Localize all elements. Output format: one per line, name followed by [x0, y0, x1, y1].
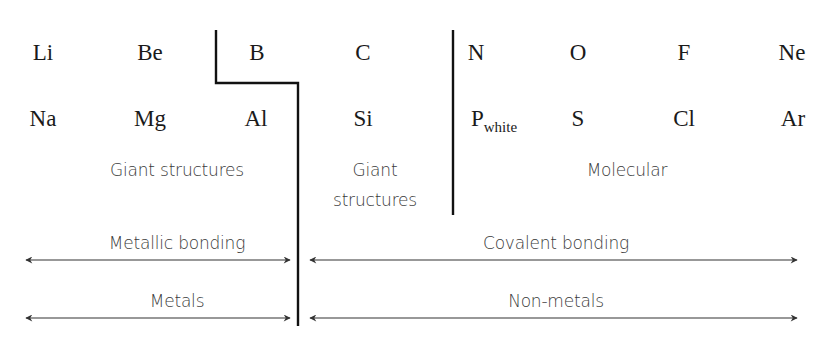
element-symbol: Si — [353, 106, 372, 131]
element-symbol: Mg — [134, 106, 166, 131]
element-symbol: F — [678, 40, 691, 65]
element-symbol: B — [249, 40, 264, 65]
nonmetal-giant-label-line2: structures — [333, 187, 417, 213]
element-symbol: S — [572, 106, 585, 131]
element-symbol: Li — [33, 40, 53, 65]
element-si: Si — [353, 107, 372, 130]
element-symbol: C — [355, 40, 370, 65]
element-al: Al — [245, 107, 268, 130]
element-li: Li — [33, 41, 53, 64]
element-subscript: white — [484, 119, 517, 135]
element-n: N — [468, 41, 485, 64]
element-be: Be — [137, 41, 163, 64]
non-metals-label: Non-metals — [508, 288, 604, 314]
element-symbol: Be — [137, 40, 163, 65]
metal-giant-structures-label: Giant structures — [110, 157, 244, 183]
element-s: S — [572, 107, 585, 130]
element-p: Pwhite — [471, 107, 517, 135]
element-symbol: Na — [30, 106, 57, 131]
element-f: F — [678, 41, 691, 64]
element-symbol: Al — [245, 106, 268, 131]
element-b: B — [249, 41, 264, 64]
metallic-bonding-label: Metallic bonding — [109, 230, 245, 256]
element-o: O — [570, 41, 587, 64]
element-na: Na — [30, 107, 57, 130]
element-mg: Mg — [134, 107, 166, 130]
element-symbol: N — [468, 40, 485, 65]
element-ar: Ar — [781, 107, 805, 130]
element-symbol: P — [471, 106, 484, 131]
molecular-label: Molecular — [587, 157, 668, 183]
covalent-bonding-label: Covalent bonding — [483, 230, 629, 256]
element-symbol: Cl — [673, 106, 695, 131]
element-symbol: O — [570, 40, 587, 65]
nonmetal-giant-label-line1: Giant — [353, 157, 398, 183]
element-ne: Ne — [779, 41, 806, 64]
element-c: C — [355, 41, 370, 64]
metals-label: Metals — [150, 288, 205, 314]
element-symbol: Ne — [779, 40, 806, 65]
element-symbol: Ar — [781, 106, 805, 131]
element-cl: Cl — [673, 107, 695, 130]
